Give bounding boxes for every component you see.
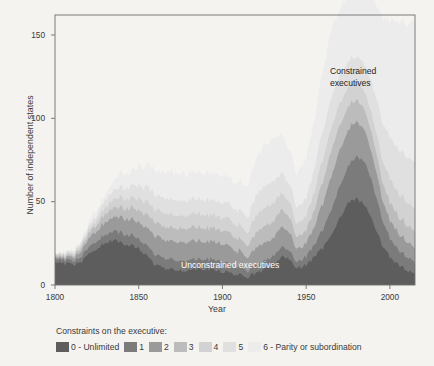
y-tick-label: 100 xyxy=(19,113,45,123)
legend-item-0[interactable]: 0 - Unlimited xyxy=(56,342,119,352)
x-tick-label: 1900 xyxy=(202,292,242,302)
legend-label-3: 3 xyxy=(189,342,194,352)
legend-title: Constraints on the executive: xyxy=(56,326,167,336)
legend-label-0: 0 - Unlimited xyxy=(71,342,119,352)
legend-swatch-6 xyxy=(248,342,261,352)
legend-swatch-3 xyxy=(174,342,187,352)
legend-item-5[interactable]: 5 xyxy=(223,342,243,352)
legend-item-4[interactable]: 4 xyxy=(199,342,219,352)
legend-item-1[interactable]: 1 xyxy=(124,342,144,352)
legend-item-3[interactable]: 3 xyxy=(174,342,194,352)
stacked-area-chart: Number of independent states Year 050100… xyxy=(0,0,434,366)
x-tick-label: 1800 xyxy=(35,292,75,302)
annotation-constrained-executives: Constrained executives xyxy=(330,66,376,89)
legend-swatch-0 xyxy=(56,342,69,352)
legend: 0 - Unlimited123456 - Parity or subordin… xyxy=(56,342,367,352)
legend-swatch-5 xyxy=(223,342,236,352)
x-tick-label: 1850 xyxy=(119,292,159,302)
legend-swatch-1 xyxy=(124,342,137,352)
legend-label-2: 2 xyxy=(164,342,169,352)
x-tick-label: 1950 xyxy=(286,292,326,302)
legend-label-6: 6 - Parity or subordination xyxy=(263,342,361,352)
y-tick-label: 50 xyxy=(19,196,45,206)
y-axis-label: Number of independent states xyxy=(25,65,35,245)
legend-item-2[interactable]: 2 xyxy=(149,342,169,352)
legend-swatch-4 xyxy=(199,342,212,352)
x-tick-label: 2000 xyxy=(370,292,410,302)
legend-item-6[interactable]: 6 - Parity or subordination xyxy=(248,342,361,352)
y-tick-label: 0 xyxy=(19,280,45,290)
annotation-unconstrained-executives: Unconstrained executives xyxy=(181,260,279,272)
y-tick-label: 150 xyxy=(19,30,45,40)
legend-label-1: 1 xyxy=(139,342,144,352)
legend-swatch-2 xyxy=(149,342,162,352)
legend-label-4: 4 xyxy=(214,342,219,352)
legend-label-5: 5 xyxy=(238,342,243,352)
x-axis-label: Year xyxy=(0,304,434,314)
